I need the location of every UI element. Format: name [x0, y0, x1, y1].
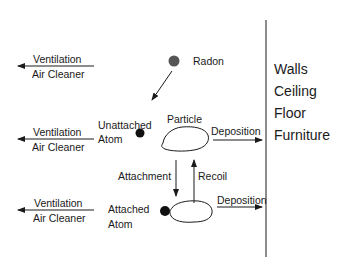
removal-top-label-2: Air Cleaner — [32, 68, 85, 80]
surface-ceiling: Ceiling — [274, 80, 330, 102]
attachment-label: Attachment — [118, 170, 171, 182]
deposition-upper-label: Deposition — [211, 125, 261, 137]
particle-label: Particle — [167, 113, 202, 125]
surface-walls: Walls — [274, 58, 330, 80]
removal-middle-label-1: Ventilation — [33, 126, 81, 138]
removal-top-label-1: Ventilation — [33, 53, 81, 65]
particle-icon — [162, 127, 209, 151]
removal-bottom-label-1: Ventilation — [34, 197, 82, 209]
recoil-label: Recoil — [198, 170, 227, 182]
surfaces-list: Walls Ceiling Floor Furniture — [274, 58, 330, 146]
radon-atom-icon — [169, 56, 180, 67]
attached-label-2: Atom — [108, 218, 133, 230]
radon-label: Radon — [193, 55, 224, 67]
removal-bottom-label-2: Air Cleaner — [33, 212, 86, 224]
removal-middle-label-2: Air Cleaner — [32, 141, 85, 153]
unattached-label-2: Atom — [98, 133, 123, 145]
attached-particle-icon — [170, 201, 212, 222]
decay-arrow — [152, 71, 172, 100]
surface-floor: Floor — [274, 102, 330, 124]
attached-atom-icon — [160, 206, 170, 216]
surface-furniture: Furniture — [274, 124, 330, 146]
deposition-lower-label: Deposition — [217, 194, 267, 206]
radon-diagram: Ventilation Air Cleaner Ventilation Air … — [0, 0, 341, 273]
unattached-label-1: Unattached — [98, 119, 152, 131]
attached-label-1: Attached — [108, 203, 149, 215]
